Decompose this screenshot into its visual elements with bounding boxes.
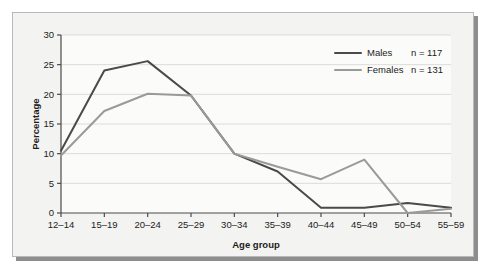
y-tick-label: 30: [43, 29, 54, 40]
chart-figure: 051015202530 12–1415–1920–2425–2930–3435…: [13, 13, 475, 258]
x-axis-title: Age group: [232, 239, 280, 250]
x-tick-label: 20–24: [134, 219, 160, 230]
x-tick-label: 50–54: [394, 219, 420, 230]
y-axis-title: Percentage: [30, 98, 41, 149]
x-tick-label: 35–39: [264, 219, 290, 230]
x-tick-label: 55–59: [438, 219, 464, 230]
y-tick-label: 15: [43, 118, 54, 129]
page-root: 051015202530 12–1415–1920–2425–2930–3435…: [0, 0, 492, 279]
x-axis-ticks: 12–1415–1920–2425–2930–3435–3940–4445–49…: [48, 213, 464, 230]
legend-label-males: Males: [367, 47, 393, 58]
y-axis-ticks: 051015202530: [43, 29, 61, 218]
y-tick-label: 0: [49, 207, 54, 218]
x-tick-label: 45–49: [351, 219, 377, 230]
y-tick-label: 20: [43, 89, 54, 100]
line-chart: 051015202530 12–1415–1920–2425–2930–3435…: [13, 13, 475, 258]
x-tick-label: 40–44: [308, 219, 334, 230]
legend-count-females: n = 131: [411, 64, 443, 75]
y-tick-label: 5: [49, 178, 54, 189]
x-tick-label: 30–34: [221, 219, 247, 230]
x-tick-label: 12–14: [48, 219, 74, 230]
x-tick-label: 25–29: [178, 219, 204, 230]
x-tick-label: 15–19: [91, 219, 117, 230]
y-tick-label: 25: [43, 59, 54, 70]
chart-panel: 051015202530 12–1415–1920–2425–2930–3435…: [12, 12, 474, 257]
legend-count-males: n = 117: [411, 47, 442, 58]
legend-label-females: Females: [367, 64, 404, 75]
y-tick-label: 10: [43, 148, 54, 159]
